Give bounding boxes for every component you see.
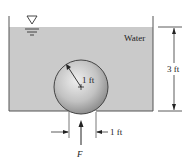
depth-label: 3 ft <box>167 64 180 74</box>
force-label: F <box>76 149 83 159</box>
radius-label: 1 ft <box>82 75 95 85</box>
force-arrow-icon <box>79 120 84 145</box>
free-surface-icon <box>25 16 39 35</box>
buoyancy-diagram: Water 1 ft 3 ft 1 ft F <box>0 0 193 162</box>
hole-label: 1 ft <box>110 127 123 137</box>
fluid-label: Water <box>124 33 145 43</box>
